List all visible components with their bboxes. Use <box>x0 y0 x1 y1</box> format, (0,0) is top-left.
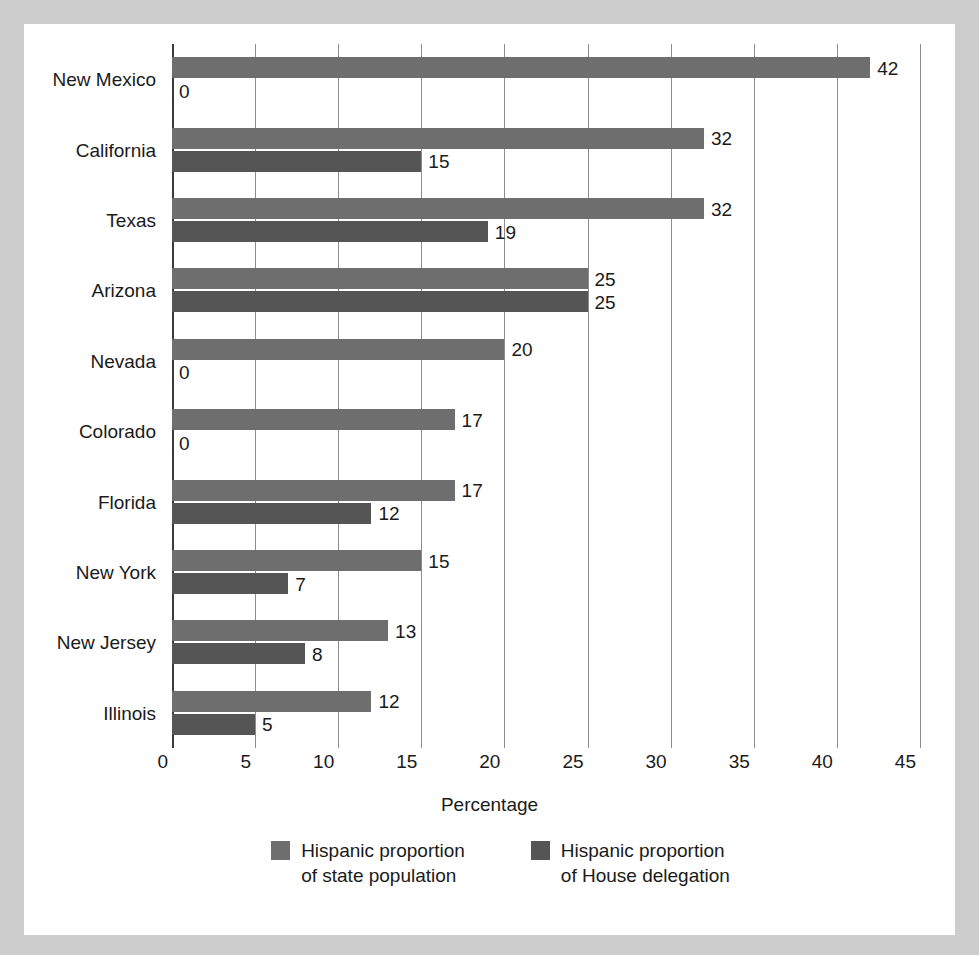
category-label: Texas <box>106 211 156 230</box>
bar-value-label: 12 <box>378 504 399 523</box>
bar-row: 12 <box>172 503 920 524</box>
bar-group: 125 <box>172 691 920 735</box>
bar[interactable] <box>172 151 421 172</box>
category-label: New Mexico <box>53 70 156 89</box>
bar-row: 19 <box>172 221 920 242</box>
bar-value-label: 17 <box>462 410 483 429</box>
bar-row: 17 <box>172 480 920 501</box>
bar-value-label: 0 <box>179 433 190 452</box>
legend-item[interactable]: Hispanic proportion of House delegation <box>531 838 730 888</box>
x-tick-label-0: 0 <box>157 752 172 771</box>
x-tick-label-15: 15 <box>396 752 421 771</box>
bar[interactable] <box>172 691 371 712</box>
bar-value-label: 15 <box>428 152 449 171</box>
value-axis-tick-labels: 051015202530354045 <box>172 752 920 782</box>
bar[interactable] <box>172 643 305 664</box>
bar-group: 3215 <box>172 128 920 172</box>
x-tick-label-30: 30 <box>646 752 671 771</box>
bar-row: 5 <box>172 714 920 735</box>
category-axis-labels: New MexicoCaliforniaTexasArizonaNevadaCo… <box>24 44 156 748</box>
category-label: Nevada <box>91 351 157 370</box>
bar-row: 32 <box>172 198 920 219</box>
bar-value-label: 7 <box>295 574 306 593</box>
bar-value-label: 32 <box>711 129 732 148</box>
legend-item[interactable]: Hispanic proportion of state population <box>271 838 465 888</box>
bar[interactable] <box>172 503 371 524</box>
bar[interactable] <box>172 221 488 242</box>
bar-value-label: 13 <box>395 621 416 640</box>
bar-row: 0 <box>172 362 920 383</box>
legend-swatch-icon <box>531 841 550 860</box>
category-label: New Jersey <box>57 633 156 652</box>
bar-row: 0 <box>172 432 920 453</box>
bar-row: 42 <box>172 57 920 78</box>
bar-value-label: 25 <box>595 292 616 311</box>
legend: Hispanic proportion of state populationH… <box>24 838 955 888</box>
x-tick-label-45: 45 <box>895 752 920 771</box>
bar-group: 200 <box>172 339 920 383</box>
bar-row: 17 <box>172 409 920 430</box>
category-label: New York <box>76 563 156 582</box>
bar-row: 13 <box>172 620 920 641</box>
x-tick-label-5: 5 <box>241 752 256 771</box>
bar-row: 25 <box>172 291 920 312</box>
bar[interactable] <box>172 573 288 594</box>
bar-value-label: 15 <box>428 551 449 570</box>
legend-swatch-icon <box>271 841 290 860</box>
bar-value-label: 8 <box>312 644 323 663</box>
bar-row: 12 <box>172 691 920 712</box>
x-tick-label-35: 35 <box>729 752 754 771</box>
x-axis-title: Percentage <box>24 794 955 816</box>
bar[interactable] <box>172 480 455 501</box>
plot-area: 4203215321925252001701712157138125 <box>172 44 920 748</box>
category-label: Colorado <box>79 422 156 441</box>
category-label: California <box>76 140 156 159</box>
bar[interactable] <box>172 268 588 289</box>
bar-row: 15 <box>172 151 920 172</box>
bar-group: 3219 <box>172 198 920 242</box>
bar-value-label: 42 <box>877 58 898 77</box>
bar-value-label: 32 <box>711 199 732 218</box>
x-tick-label-20: 20 <box>479 752 504 771</box>
bar-row: 7 <box>172 573 920 594</box>
legend-label: Hispanic proportion of House delegation <box>561 838 730 888</box>
bar-row: 25 <box>172 268 920 289</box>
bar[interactable] <box>172 550 421 571</box>
bar-group: 170 <box>172 409 920 453</box>
bar[interactable] <box>172 620 388 641</box>
bar-value-label: 0 <box>179 363 190 382</box>
bar[interactable] <box>172 57 870 78</box>
bar-group: 2525 <box>172 268 920 312</box>
x-tick-label-25: 25 <box>562 752 587 771</box>
bar-group: 420 <box>172 57 920 101</box>
chart-card: 4203215321925252001701712157138125 New M… <box>24 24 955 935</box>
bar-row: 20 <box>172 339 920 360</box>
bar-value-label: 12 <box>378 692 399 711</box>
x-tick-label-40: 40 <box>812 752 837 771</box>
category-label: Florida <box>98 492 156 511</box>
legend-label: Hispanic proportion of state population <box>301 838 465 888</box>
bar-group: 138 <box>172 620 920 664</box>
bar-group: 157 <box>172 550 920 594</box>
category-label: Arizona <box>92 281 156 300</box>
bar-row: 32 <box>172 128 920 149</box>
bar-value-label: 20 <box>511 340 532 359</box>
category-label: Illinois <box>103 703 156 722</box>
bar[interactable] <box>172 291 588 312</box>
bar-value-label: 0 <box>179 81 190 100</box>
bar-value-label: 17 <box>462 481 483 500</box>
bar-value-label: 5 <box>262 715 273 734</box>
gridline-45 <box>920 44 921 748</box>
bar-group: 1712 <box>172 480 920 524</box>
bar-row: 0 <box>172 80 920 101</box>
bar[interactable] <box>172 714 255 735</box>
bar[interactable] <box>172 198 704 219</box>
bar-value-label: 25 <box>595 269 616 288</box>
bar-row: 15 <box>172 550 920 571</box>
bar-row: 8 <box>172 643 920 664</box>
bar[interactable] <box>172 409 455 430</box>
bar[interactable] <box>172 128 704 149</box>
bar[interactable] <box>172 339 504 360</box>
x-tick-label-10: 10 <box>313 752 338 771</box>
bar-value-label: 19 <box>495 222 516 241</box>
